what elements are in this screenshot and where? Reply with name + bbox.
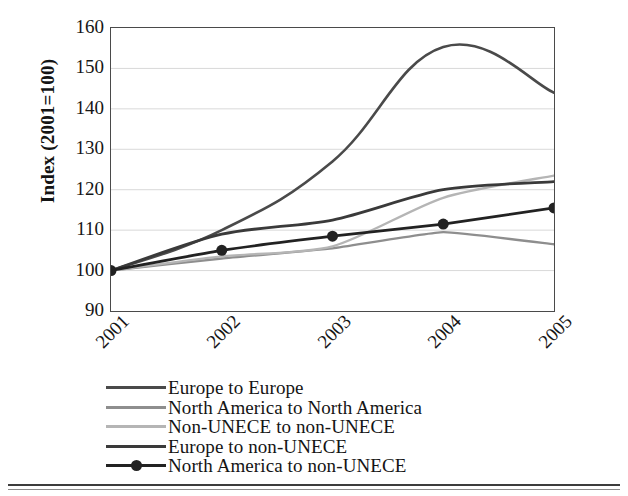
footer-rule bbox=[8, 484, 620, 486]
x-tick-label: 2004 bbox=[424, 311, 464, 351]
legend-item[interactable]: Europe to non-UNECE bbox=[104, 437, 524, 457]
legend-item[interactable]: North America to non-UNECE bbox=[104, 456, 524, 476]
legend-swatch-icon bbox=[104, 437, 168, 457]
legend-item[interactable]: North America to North America bbox=[104, 398, 524, 418]
x-tick-label: 2005 bbox=[535, 311, 575, 351]
legend-marker-icon bbox=[131, 460, 142, 471]
chart-figure: Index (2001=100) 16015014013012011010090… bbox=[0, 0, 628, 496]
legend-item-label: North America to North America bbox=[168, 398, 422, 418]
legend-item[interactable]: Non-UNECE to non-UNECE bbox=[104, 417, 524, 437]
legend-swatch-icon bbox=[104, 398, 168, 418]
legend-item[interactable]: Europe to Europe bbox=[104, 378, 524, 398]
legend-swatch-icon bbox=[104, 456, 168, 476]
legend-item-label: Non-UNECE to non-UNECE bbox=[168, 417, 395, 437]
chart-legend: Europe to EuropeNorth America to North A… bbox=[104, 378, 524, 476]
x-tick-label: 2002 bbox=[203, 311, 243, 351]
footer-rule-secondary bbox=[8, 489, 620, 490]
legend-line-icon bbox=[106, 445, 166, 448]
legend-swatch-icon bbox=[104, 378, 168, 398]
legend-item-label: North America to non-UNECE bbox=[168, 456, 406, 476]
legend-swatch-icon bbox=[104, 417, 168, 437]
x-tick-label: 2003 bbox=[314, 311, 354, 351]
legend-line-icon bbox=[106, 425, 166, 428]
legend-line-icon bbox=[106, 406, 166, 409]
legend-item-label: Europe to Europe bbox=[168, 378, 304, 398]
legend-line-icon bbox=[106, 386, 166, 389]
legend-item-label: Europe to non-UNECE bbox=[168, 437, 347, 457]
x-tick-label: 2001 bbox=[92, 311, 132, 351]
